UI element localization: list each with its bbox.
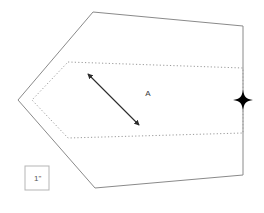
inner-dotted-polygon: [32, 62, 243, 138]
outer-outline-polygon: [18, 12, 243, 188]
figure-canvas: A 1": [0, 0, 264, 213]
scale-reference-box: 1": [25, 166, 49, 190]
four-pointed-star-shape: [233, 90, 253, 110]
technical-drawing: A 1": [0, 0, 264, 213]
scale-box-label: 1": [34, 174, 41, 183]
four-pointed-star-icon: [233, 90, 253, 110]
region-label-a: A: [145, 89, 151, 98]
dimension-arrow-double-headed: [88, 74, 139, 125]
